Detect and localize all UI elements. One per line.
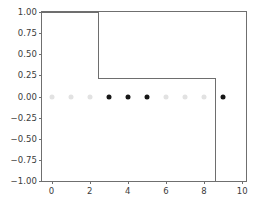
- x-axis-tick: [204, 181, 205, 184]
- x-axis-tick-label: 4: [125, 186, 131, 196]
- x-axis-tick: [242, 181, 243, 184]
- x-axis-tick-label: 0: [49, 186, 55, 196]
- x-axis-tick-label: 10: [237, 186, 248, 196]
- x-axis-tick-label: 6: [163, 186, 169, 196]
- y-axis-tick-label: 0.75: [18, 28, 37, 38]
- chart-figure: −1.00−0.75−0.50−0.250.000.250.500.751.00…: [0, 0, 258, 213]
- x-axis-tick: [166, 181, 167, 184]
- y-axis-tick: [39, 160, 42, 161]
- scatter-point-active[interactable]: [221, 94, 226, 99]
- scatter-point-inactive[interactable]: [182, 94, 187, 99]
- y-axis-tick-label: −0.25: [10, 113, 37, 123]
- y-axis-tick-label: 0.50: [18, 49, 37, 59]
- plot-axes-box: −1.00−0.75−0.50−0.250.000.250.500.751.00…: [41, 11, 247, 182]
- y-axis-tick: [39, 181, 42, 182]
- y-axis-tick-label: −0.75: [10, 155, 37, 165]
- scatter-point-inactive[interactable]: [68, 94, 73, 99]
- plot-surface: [42, 12, 246, 181]
- y-axis-tick-label: 0.00: [18, 92, 37, 102]
- y-axis-tick-label: −1.00: [10, 176, 37, 186]
- y-axis-tick: [39, 33, 42, 34]
- y-axis-tick: [39, 97, 42, 98]
- step-line-segment: [215, 78, 216, 181]
- y-axis-tick: [39, 12, 42, 13]
- step-line-segment: [98, 12, 99, 78]
- y-axis-tick-label: −0.50: [10, 134, 37, 144]
- y-axis-tick: [39, 54, 42, 55]
- scatter-point-active[interactable]: [125, 94, 130, 99]
- scatter-point-inactive[interactable]: [163, 94, 168, 99]
- scatter-point-active[interactable]: [106, 94, 111, 99]
- step-line-segment: [42, 12, 98, 13]
- x-axis-tick-label: 8: [201, 186, 207, 196]
- x-axis-tick: [90, 181, 91, 184]
- y-axis-tick-label: 0.25: [18, 70, 37, 80]
- y-axis-tick: [39, 118, 42, 119]
- y-axis-tick: [39, 75, 42, 76]
- scatter-point-inactive[interactable]: [87, 94, 92, 99]
- scatter-point-inactive[interactable]: [49, 94, 54, 99]
- x-axis-tick: [52, 181, 53, 184]
- step-line-segment: [98, 78, 215, 79]
- x-axis-tick-label: 2: [87, 186, 93, 196]
- scatter-point-active[interactable]: [144, 94, 149, 99]
- y-axis-tick-label: 1.00: [18, 7, 37, 17]
- x-axis-tick: [128, 181, 129, 184]
- scatter-point-inactive[interactable]: [202, 94, 207, 99]
- y-axis-tick: [39, 139, 42, 140]
